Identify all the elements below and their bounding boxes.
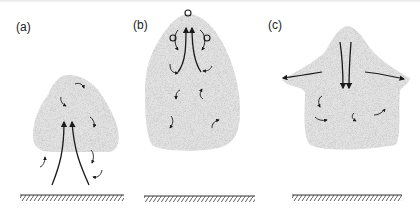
- panel-b: [144, 10, 255, 202]
- eddy-arrow: [40, 157, 45, 167]
- diagram-canvas: [0, 0, 420, 216]
- eddy-arrow: [93, 170, 102, 177]
- cloud-a: [33, 75, 119, 152]
- ground-b: [144, 196, 255, 202]
- panel-c: [282, 26, 410, 201]
- panel-label-a: (a): [16, 20, 31, 34]
- cloud-c: [282, 26, 410, 150]
- panel-label-c: (c): [268, 18, 282, 32]
- ground-c: [292, 195, 402, 201]
- panel-label-b: (b): [133, 18, 148, 32]
- panel-a: [20, 75, 124, 201]
- ground-a: [20, 195, 124, 201]
